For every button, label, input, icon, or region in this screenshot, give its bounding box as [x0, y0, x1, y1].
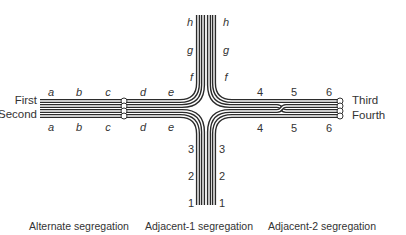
chromosome-label-first: First	[15, 94, 38, 106]
right-centromeres	[337, 98, 343, 119]
locus-label: b	[76, 86, 82, 98]
locus-label: h	[187, 16, 193, 28]
centromere-circle	[337, 113, 343, 119]
caption-adjacent-1: Adjacent-1 segregation	[145, 220, 253, 232]
locus-label: f	[190, 71, 194, 83]
locus-label: f	[224, 71, 228, 83]
caption-adjacent-2: Adjacent-2 segregation	[268, 220, 376, 232]
locus-label: e	[168, 86, 174, 98]
right-arm-top-loci: 4 5 6	[257, 86, 332, 98]
locus-label: h	[223, 16, 229, 28]
locus-label: 3	[188, 143, 194, 155]
top-arm-left-loci: h g f	[187, 16, 194, 83]
locus-label: a	[48, 86, 54, 98]
centromere-circle	[121, 113, 127, 119]
locus-label: 3	[219, 143, 225, 155]
bottom-arm-left-loci: 3 2 1	[188, 143, 194, 209]
locus-label: e	[168, 121, 174, 133]
locus-label: 2	[219, 170, 225, 182]
chromosome-label-second: Second	[0, 108, 37, 120]
locus-label: d	[140, 86, 147, 98]
locus-label: g	[223, 44, 230, 56]
locus-label: 5	[291, 86, 297, 98]
quadrivalent-diagram: First Second Third Fourth a b c d e a b …	[0, 0, 406, 235]
captions: Alternate segregation Adjacent-1 segrega…	[29, 220, 376, 232]
locus-label: c	[105, 86, 111, 98]
locus-label: b	[76, 121, 82, 133]
locus-label: 1	[219, 197, 225, 209]
chromosome-label-fourth: Fourth	[352, 109, 385, 121]
locus-label: 5	[291, 122, 297, 134]
locus-label: 1	[188, 197, 194, 209]
locus-label: 6	[326, 122, 332, 134]
left-centromeres	[121, 98, 127, 119]
left-arm-bottom-loci: a b c d e	[48, 121, 174, 133]
locus-label: 4	[257, 122, 263, 134]
caption-alternate: Alternate segregation	[29, 220, 129, 232]
locus-label: g	[187, 44, 194, 56]
bottom-arm-right-loci: 3 2 1	[219, 143, 225, 209]
locus-label: 6	[326, 86, 332, 98]
left-arm-top-loci: a b c d e	[48, 86, 174, 98]
top-arm-right-loci: h g f	[223, 16, 230, 83]
locus-label: d	[140, 121, 147, 133]
right-arm-bottom-loci: 4 5 6	[257, 122, 332, 134]
locus-label: 2	[188, 170, 194, 182]
chromosome-label-third: Third	[352, 94, 378, 106]
locus-label: 4	[257, 86, 263, 98]
locus-label: a	[48, 121, 54, 133]
locus-label: c	[105, 121, 111, 133]
